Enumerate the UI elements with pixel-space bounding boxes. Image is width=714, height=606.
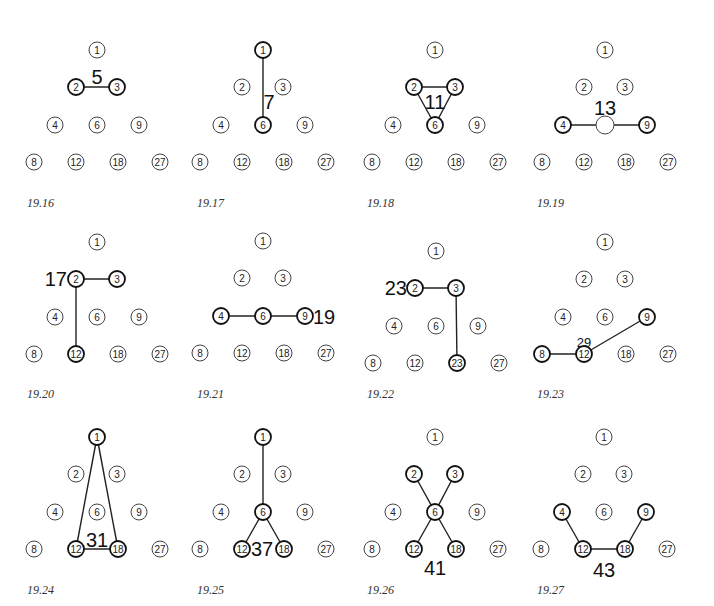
node-label: 3 bbox=[114, 274, 120, 285]
node-label: 6 bbox=[260, 507, 266, 518]
node-18: 18 bbox=[276, 154, 292, 170]
node-label: 12 bbox=[70, 157, 82, 168]
figure-caption: 19.25 bbox=[197, 583, 224, 597]
node-8: 8 bbox=[534, 346, 550, 362]
node-label: 4 bbox=[218, 507, 224, 518]
node-label: 6 bbox=[601, 507, 607, 518]
node-label: 27 bbox=[662, 157, 674, 168]
node-27: 27 bbox=[491, 355, 507, 371]
node-label: 27 bbox=[320, 157, 332, 168]
lattice-panel-19.19: 1234981218271319.19 bbox=[534, 42, 676, 210]
node-4: 4 bbox=[213, 308, 229, 324]
node-8: 8 bbox=[533, 541, 549, 557]
node-label: 8 bbox=[369, 157, 375, 168]
node-8: 8 bbox=[192, 345, 208, 361]
node-label: 9 bbox=[136, 120, 142, 131]
node-4: 4 bbox=[385, 117, 401, 133]
node-2: 2 bbox=[68, 79, 84, 95]
node-8: 8 bbox=[192, 541, 208, 557]
node-label: 27 bbox=[492, 544, 504, 555]
node-label: 3 bbox=[280, 273, 286, 284]
node-label: 2 bbox=[581, 82, 587, 93]
node-4: 4 bbox=[555, 117, 571, 133]
figure-caption: 19.26 bbox=[367, 583, 394, 597]
node-label: 3 bbox=[114, 469, 120, 480]
node-label: 4 bbox=[560, 312, 566, 323]
lattice-panel-19.26: 12346981218274119.26 bbox=[364, 429, 506, 597]
node-9: 9 bbox=[297, 308, 313, 324]
node-label: 12 bbox=[409, 358, 421, 369]
node-9: 9 bbox=[131, 117, 147, 133]
node-label: 3 bbox=[621, 469, 627, 480]
node-1: 1 bbox=[597, 42, 613, 58]
node-label: 1 bbox=[433, 246, 439, 257]
node-label: 9 bbox=[136, 312, 142, 323]
node-2: 2 bbox=[576, 271, 592, 287]
node-8: 8 bbox=[26, 541, 42, 557]
figure-caption: 19.24 bbox=[27, 583, 54, 597]
node-label: 27 bbox=[661, 544, 673, 555]
node-2: 2 bbox=[407, 280, 423, 296]
node-label: 27 bbox=[154, 157, 166, 168]
node-label: 4 bbox=[52, 312, 58, 323]
node-label: 18 bbox=[620, 349, 632, 360]
node-label: 3 bbox=[452, 469, 458, 480]
node-2: 2 bbox=[576, 79, 592, 95]
node-label: 8 bbox=[31, 544, 37, 555]
node-9: 9 bbox=[297, 504, 313, 520]
node-12: 12 bbox=[406, 541, 422, 557]
node-label: 1 bbox=[260, 432, 266, 443]
node-4: 4 bbox=[385, 504, 401, 520]
node-label: 27 bbox=[320, 348, 332, 359]
node-4: 4 bbox=[213, 504, 229, 520]
node-3: 3 bbox=[275, 270, 291, 286]
node-label: 12 bbox=[236, 157, 248, 168]
node-label: 18 bbox=[278, 157, 290, 168]
node-18: 18 bbox=[448, 541, 464, 557]
node-label: 8 bbox=[370, 358, 376, 369]
node-label: 27 bbox=[662, 349, 674, 360]
node-3: 3 bbox=[447, 466, 463, 482]
node-23: 23 bbox=[449, 355, 465, 371]
node-1: 1 bbox=[597, 234, 613, 250]
node-9: 9 bbox=[470, 318, 486, 334]
node-18: 18 bbox=[276, 345, 292, 361]
figure-caption: 19.20 bbox=[27, 387, 54, 401]
node-label: 1 bbox=[94, 237, 100, 248]
node-18: 18 bbox=[110, 346, 126, 362]
node-label: 2 bbox=[73, 82, 79, 93]
node-4: 4 bbox=[47, 309, 63, 325]
sum-label: 11 bbox=[425, 91, 446, 113]
node-label: 8 bbox=[539, 157, 545, 168]
node-label: 6 bbox=[94, 120, 100, 131]
node-label: 2 bbox=[580, 469, 586, 480]
node-8: 8 bbox=[192, 154, 208, 170]
node-27: 27 bbox=[660, 154, 676, 170]
node-label: 9 bbox=[644, 120, 650, 131]
node-4: 4 bbox=[386, 318, 402, 334]
node-6: 6 bbox=[89, 309, 105, 325]
node-label: 8 bbox=[197, 544, 203, 555]
node-label: 8 bbox=[539, 349, 545, 360]
node-4: 4 bbox=[47, 117, 63, 133]
edge-12-9 bbox=[584, 317, 647, 354]
node-label: 18 bbox=[620, 157, 632, 168]
node-1: 1 bbox=[255, 233, 271, 249]
node-12: 12 bbox=[406, 154, 422, 170]
figure-caption: 19.19 bbox=[537, 196, 564, 210]
node-label: 12 bbox=[236, 348, 248, 359]
lattice-panel-19.23: 12346981218272919.23 bbox=[534, 234, 676, 401]
figure-caption: 19.16 bbox=[27, 196, 54, 210]
node-1: 1 bbox=[427, 429, 443, 445]
node-9: 9 bbox=[469, 117, 485, 133]
node-1: 1 bbox=[596, 429, 612, 445]
node-3: 3 bbox=[617, 79, 633, 95]
node-6: 6 bbox=[89, 504, 105, 520]
sum-label: 7 bbox=[263, 91, 274, 113]
node-label: 12 bbox=[236, 544, 248, 555]
node-9: 9 bbox=[131, 504, 147, 520]
lattice-panel-19.27: 12346981218274319.27 bbox=[533, 429, 675, 597]
edge-3-18 bbox=[456, 288, 457, 363]
node-label: 1 bbox=[432, 45, 438, 56]
sum-label: 5 bbox=[91, 66, 102, 88]
